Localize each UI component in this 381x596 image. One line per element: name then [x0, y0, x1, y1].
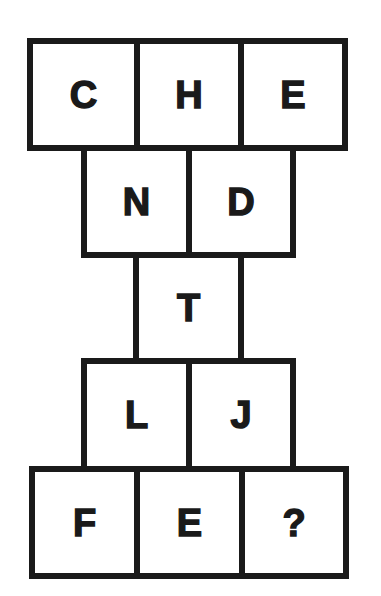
cell-letter: F: [73, 504, 96, 542]
cell-r2-c1: N: [81, 145, 192, 258]
cell-letter: J: [230, 396, 251, 434]
cell-r5-c3-unknown: ?: [239, 466, 349, 579]
cell-letter: E: [177, 504, 202, 542]
cell-r3-c1: T: [133, 252, 244, 364]
cell-letter: H: [175, 76, 202, 114]
cell-r4-c1: L: [81, 358, 192, 472]
cell-r5-c1: F: [29, 466, 140, 579]
cell-r1-c1: C: [27, 38, 140, 151]
cell-r2-c2: D: [186, 145, 296, 258]
question-mark: ?: [282, 504, 305, 542]
cell-letter: D: [227, 183, 254, 221]
cell-r4-c2: J: [186, 358, 296, 472]
cell-letter: L: [125, 396, 148, 434]
cell-letter: T: [177, 289, 200, 327]
cell-r1-c2: H: [134, 38, 244, 151]
cell-letter: C: [70, 76, 97, 114]
cell-r1-c3: E: [238, 38, 348, 151]
cell-letter: E: [280, 76, 305, 114]
cell-r5-c2: E: [134, 466, 245, 579]
cell-letter: N: [123, 183, 150, 221]
